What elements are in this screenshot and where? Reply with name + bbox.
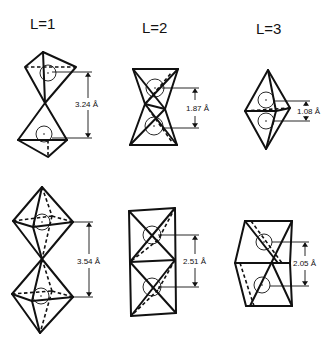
- distance-label: 3.24 Å: [75, 100, 99, 109]
- l1-corner-sharing-octahedra: 3.54 Å: [12, 187, 101, 333]
- l2-edge-sharing-octahedra: 2.51 Å: [129, 208, 207, 316]
- distance-label: 1.08 Å: [297, 107, 321, 116]
- distance-label: 2.51 Å: [183, 257, 207, 266]
- l1-corner-sharing-tetrahedra: 3.24 Å: [18, 52, 99, 157]
- column-title-l2: L=2: [142, 19, 167, 36]
- polyhedra-linkage-diagram: L=1 L=2 L=3 3.24 Å: [0, 0, 327, 339]
- distance-label: 3.54 Å: [77, 257, 101, 266]
- distance-label: 1.87 Å: [186, 104, 210, 113]
- l3-face-sharing-octahedra: 2.05 Å: [235, 221, 317, 306]
- column-title-l3: L=3: [256, 20, 281, 37]
- l2-edge-sharing-tetrahedra: 1.87 Å: [130, 69, 210, 145]
- column-title-l1: L=1: [30, 15, 55, 32]
- l3-face-sharing-tetrahedra: 1.08 Å: [245, 70, 321, 149]
- distance-label: 2.05 Å: [293, 259, 317, 268]
